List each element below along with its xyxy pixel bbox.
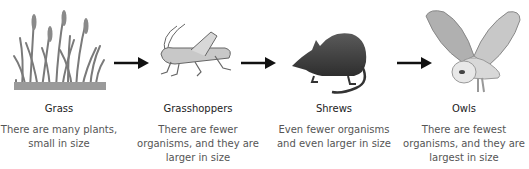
stage-description: Even fewer organisms and even larger in … [269, 123, 399, 151]
stage-description: There are fewer organisms, and they are … [133, 123, 263, 165]
grasshopper-icon [155, 22, 235, 78]
stage-name: Shrews [269, 103, 399, 114]
arrow-right-icon [241, 57, 277, 69]
stage-description: There are many plants, small in size [0, 123, 124, 151]
grass-icon [12, 8, 108, 92]
stage-description: There are fewest organisms, and they are… [399, 123, 529, 165]
stage-name: Grasshoppers [133, 103, 263, 114]
owl-icon [424, 6, 524, 94]
stage-name: Grass [0, 103, 124, 114]
stage-name: Owls [399, 103, 529, 114]
arrow-right-icon [114, 57, 150, 69]
shrew-icon [292, 26, 372, 98]
